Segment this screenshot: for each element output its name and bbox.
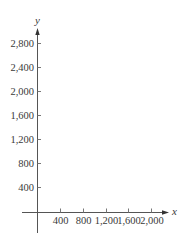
y-tick-label: 800 [18,158,34,169]
y-ticks [38,44,42,188]
x-tick-label: 1,200 [95,215,119,226]
y-axis-arrow-icon [35,28,39,35]
y-tick-label: 2,800 [10,38,34,49]
x-tick-label: 800 [76,215,92,226]
coordinate-plane: 400 800 1,200 1,600 2,000 2,400 2,800 40… [0,0,186,242]
y-tick-label: 2,400 [10,62,34,73]
x-tick-label: 2,000 [140,215,164,226]
y-tick-label: 400 [18,182,34,193]
y-tick-label: 2,000 [10,86,34,97]
y-tick-label: 1,200 [10,134,34,145]
x-ticks [61,209,152,213]
y-tick-label: 1,600 [10,110,34,121]
x-tick-label: 400 [53,215,69,226]
x-tick-label: 1,600 [117,215,141,226]
y-axis-label: y [34,14,40,26]
x-axis-label: x [171,205,177,217]
